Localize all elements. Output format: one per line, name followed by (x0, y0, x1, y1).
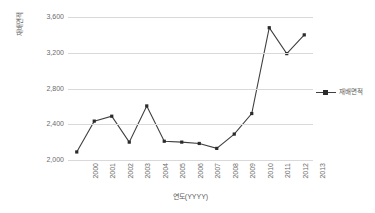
x-axis-tick-label: 2011 (284, 163, 292, 193)
y-axis-tick-label: 2,800 (30, 85, 64, 93)
data-point (233, 132, 236, 135)
data-point (268, 26, 271, 29)
data-point (180, 141, 183, 144)
y-axis-tick-labels: 2,0002,4002,8003,2003,600 (0, 0, 64, 213)
x-axis-tick-label: 2012 (302, 163, 310, 193)
gridline (68, 53, 313, 54)
x-axis-tick-label: 2001 (109, 163, 117, 193)
legend-marker-icon (316, 89, 336, 96)
x-axis-tick-label: 2005 (179, 163, 187, 193)
data-point (303, 33, 306, 36)
data-point (110, 115, 113, 118)
x-axis-tick-label: 2000 (92, 163, 100, 193)
x-axis-tick-label: 2010 (267, 163, 275, 193)
y-axis-tick-label: 3,200 (30, 49, 64, 57)
data-point (250, 112, 253, 115)
x-axis-tick-labels: 2000200120022003200420052006200720082009… (68, 160, 313, 194)
x-axis-tick-label: 2008 (232, 163, 240, 193)
data-point (198, 142, 201, 145)
plot-area (68, 17, 313, 160)
x-axis-title: 연도(YYYY) (68, 192, 313, 201)
x-axis-tick-label: 2013 (319, 163, 327, 193)
series-markers (75, 26, 306, 153)
x-axis-tick-label: 2004 (162, 163, 170, 193)
x-axis-tick-label: 2006 (197, 163, 205, 193)
x-axis-tick-label: 2007 (214, 163, 222, 193)
chart-legend: 재배면적 (316, 88, 363, 96)
gridline (68, 17, 313, 18)
x-axis-tick-label: 2003 (144, 163, 152, 193)
y-axis-tick-label: 2,000 (30, 156, 64, 164)
line-chart: 재배면적 2,0002,4002,8003,2003,600 200020012… (0, 0, 375, 213)
x-axis-tick-label: 2002 (127, 163, 135, 193)
x-axis-tick-label: 2009 (249, 163, 257, 193)
data-point (145, 104, 148, 107)
gridline (68, 89, 313, 90)
data-point (75, 150, 78, 153)
data-point (128, 141, 131, 144)
series-polyline (77, 28, 305, 152)
y-axis-tick-label: 2,400 (30, 120, 64, 128)
legend-item-label: 재배면적 (339, 88, 363, 96)
y-axis-tick-label: 3,600 (30, 13, 64, 21)
gridline (68, 124, 313, 125)
data-point (93, 120, 96, 123)
data-point (215, 147, 218, 150)
data-point (163, 140, 166, 143)
